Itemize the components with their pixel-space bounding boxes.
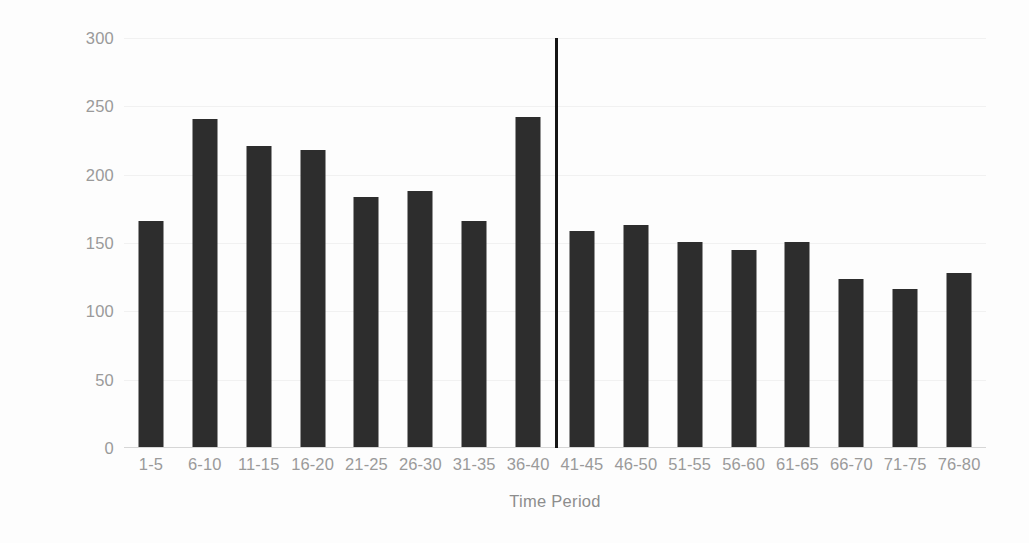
- bar-slot: [771, 38, 825, 448]
- bar[interactable]: [785, 242, 810, 448]
- x-tick-label: 41-45: [561, 455, 604, 474]
- bar-slot: [501, 38, 555, 448]
- x-tick-label: 66-70: [830, 455, 873, 474]
- bar-chart: Penalties Scored 050100150200250300 1-56…: [0, 0, 1029, 543]
- x-tick-label: 56-60: [722, 455, 765, 474]
- x-tick-label: 36-40: [507, 455, 550, 474]
- bar[interactable]: [516, 117, 541, 448]
- bar-slot: [124, 38, 178, 448]
- y-tick-label: 0: [48, 439, 114, 458]
- bar-slot: [717, 38, 771, 448]
- bar-slot: [340, 38, 394, 448]
- x-tick-label: 1-5: [139, 455, 163, 474]
- bar-slot: [447, 38, 501, 448]
- bar[interactable]: [947, 273, 972, 448]
- x-tick-label: 21-25: [345, 455, 388, 474]
- bar[interactable]: [623, 225, 648, 448]
- x-tick-label: 16-20: [291, 455, 334, 474]
- bar[interactable]: [893, 289, 918, 448]
- bar-slot: [178, 38, 232, 448]
- x-tick-label: 11-15: [238, 455, 279, 474]
- bar[interactable]: [354, 197, 379, 448]
- bar-slot: [555, 38, 609, 448]
- plot-area: [124, 38, 986, 448]
- bar-slot: [232, 38, 286, 448]
- y-axis-tick-labels: 050100150200250300: [48, 0, 114, 543]
- y-tick-label: 50: [48, 370, 114, 389]
- y-tick-label: 150: [48, 234, 114, 253]
- bar[interactable]: [246, 146, 271, 448]
- bar[interactable]: [462, 221, 487, 448]
- bar[interactable]: [569, 231, 594, 448]
- bar-slot: [878, 38, 932, 448]
- x-tick-label: 71-75: [884, 455, 927, 474]
- x-axis-title: Time Period: [124, 492, 986, 511]
- bar-slot: [932, 38, 986, 448]
- y-tick-label: 200: [48, 165, 114, 184]
- x-tick-label: 76-80: [938, 455, 981, 474]
- bar[interactable]: [731, 250, 756, 448]
- bar[interactable]: [138, 221, 163, 448]
- bar[interactable]: [192, 119, 217, 448]
- bar[interactable]: [408, 191, 433, 448]
- x-axis-tick-labels: 1-56-1011-1516-2021-2526-3031-3536-4041-…: [124, 455, 986, 485]
- y-tick-label: 250: [48, 97, 114, 116]
- bar-slot: [824, 38, 878, 448]
- x-tick-label: 61-65: [776, 455, 819, 474]
- x-tick-label: 46-50: [614, 455, 657, 474]
- y-tick-label: 300: [48, 29, 114, 48]
- bar-slot: [609, 38, 663, 448]
- bar[interactable]: [677, 242, 702, 448]
- y-tick-label: 100: [48, 302, 114, 321]
- x-tick-label: 31-35: [453, 455, 496, 474]
- x-tick-label: 26-30: [399, 455, 442, 474]
- x-tick-label: 51-55: [668, 455, 711, 474]
- bar[interactable]: [839, 279, 864, 448]
- half-time-divider-line: [555, 38, 558, 448]
- bar-slot: [286, 38, 340, 448]
- bar[interactable]: [300, 150, 325, 448]
- bar-slot: [663, 38, 717, 448]
- bar-slot: [393, 38, 447, 448]
- x-tick-label: 6-10: [188, 455, 221, 474]
